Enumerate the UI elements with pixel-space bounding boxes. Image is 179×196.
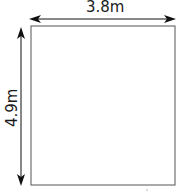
- width-label: 3.8m: [86, 0, 124, 16]
- width-dimension-arrow: [29, 15, 176, 23]
- room-rectangle: [31, 26, 175, 185]
- room-diagram: [0, 0, 179, 196]
- height-label: 4.9m: [3, 91, 21, 127]
- speck: [146, 189, 147, 190]
